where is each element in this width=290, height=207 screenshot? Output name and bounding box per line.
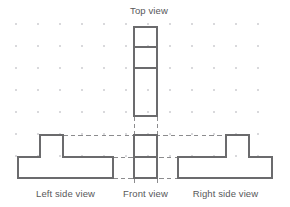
projection-lines-group	[63, 116, 226, 184]
grid-dot	[59, 155, 61, 157]
grid-dot	[59, 89, 61, 91]
grid-dot	[235, 67, 237, 69]
grid-dot	[169, 45, 171, 47]
grid-dot	[147, 23, 149, 25]
grid-dot	[81, 23, 83, 25]
grid-dot	[191, 111, 193, 113]
grid-dot	[103, 45, 105, 47]
grid-dot	[257, 89, 259, 91]
front-view-label: Front view	[112, 188, 179, 199]
grid-dot	[191, 23, 193, 25]
grid-dot	[15, 23, 17, 25]
grid-dot	[235, 155, 237, 157]
grid-dot	[125, 45, 127, 47]
grid-dot	[81, 67, 83, 69]
grid-dot	[37, 111, 39, 113]
grid-dot	[235, 23, 237, 25]
grid-dot	[37, 89, 39, 91]
grid-dot	[81, 89, 83, 91]
grid-dot	[15, 133, 17, 135]
left-side-view-outline	[18, 135, 113, 178]
grid-dot	[81, 45, 83, 47]
grid-dot	[257, 23, 259, 25]
grid-dot	[213, 67, 215, 69]
grid-dot	[37, 67, 39, 69]
grid-dot	[37, 23, 39, 25]
grid-dot	[213, 111, 215, 113]
grid-dot	[191, 45, 193, 47]
grid-dot	[37, 45, 39, 47]
grid-dot	[59, 23, 61, 25]
grid-dot	[15, 111, 17, 113]
grid-dot	[103, 111, 105, 113]
top-view-outline	[134, 27, 157, 116]
grid-dot	[169, 23, 171, 25]
grid-dot	[59, 45, 61, 47]
grid-dot	[235, 45, 237, 47]
grid-dot	[213, 23, 215, 25]
grid-dot	[125, 111, 127, 113]
right-side-view-label: Right side view	[178, 188, 273, 199]
grid-dot	[191, 89, 193, 91]
grid-dot	[169, 67, 171, 69]
grid-dot	[15, 45, 17, 47]
orthographic-projection-figure: Top view Left side view Front view Right…	[0, 0, 290, 207]
grid-dot	[125, 155, 127, 157]
top-view-rectangle	[134, 27, 157, 116]
grid-dot	[257, 133, 259, 135]
grid-dot	[147, 111, 149, 113]
grid-dot	[235, 111, 237, 113]
right-side-view-outline	[178, 135, 272, 178]
left-side-view-profile	[18, 135, 113, 178]
front-view-outline	[134, 135, 157, 178]
grid-dot	[213, 45, 215, 47]
grid-dot	[257, 45, 259, 47]
grid-dot	[103, 67, 105, 69]
grid-dot	[169, 133, 171, 135]
grid-dot	[169, 111, 171, 113]
technical-drawing-canvas	[0, 0, 290, 207]
grid-dot	[37, 133, 39, 135]
grid-dot	[103, 23, 105, 25]
grid-dot	[103, 89, 105, 91]
grid-dot	[125, 23, 127, 25]
grid-dot	[257, 111, 259, 113]
grid-dot	[15, 155, 17, 157]
grid-dot	[257, 67, 259, 69]
grid-dot	[235, 89, 237, 91]
grid-dot	[147, 89, 149, 91]
grid-dot	[125, 89, 127, 91]
background-dot-grid	[15, 23, 259, 157]
grid-dot	[81, 111, 83, 113]
grid-dot	[125, 67, 127, 69]
grid-dot	[15, 67, 17, 69]
grid-dot	[191, 67, 193, 69]
top-view-label: Top view	[106, 5, 192, 16]
grid-dot	[59, 111, 61, 113]
grid-dot	[169, 89, 171, 91]
grid-dot	[59, 67, 61, 69]
right-side-view-profile	[178, 135, 272, 178]
grid-dot	[15, 89, 17, 91]
grid-dot	[191, 133, 193, 135]
grid-dot	[213, 89, 215, 91]
left-side-view-label: Left side view	[18, 188, 113, 199]
